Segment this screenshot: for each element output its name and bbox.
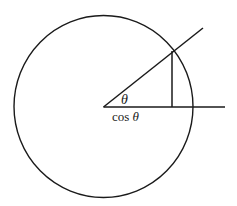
cosine-label: cos θ <box>112 110 139 123</box>
terminal-ray-line <box>104 28 204 107</box>
diagram-canvas <box>0 0 237 206</box>
cosine-function-text: cos <box>112 109 129 124</box>
cosine-variable-text: θ <box>133 109 139 124</box>
angle-theta-label: θ <box>121 93 128 107</box>
trigonometry-diagram: θ cos θ <box>0 0 237 206</box>
